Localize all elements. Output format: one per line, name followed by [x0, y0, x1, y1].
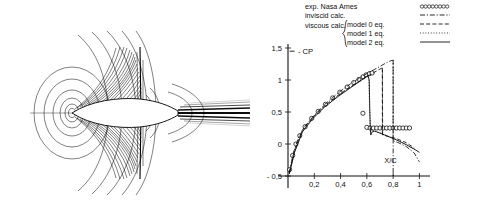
y-tick-label-2: 0,5 [271, 108, 282, 117]
legend-sample-circles [424, 5, 427, 8]
data-point-marker [407, 126, 411, 130]
legend-sample-circles [420, 5, 423, 8]
legend-sample-circles [435, 5, 438, 8]
figure-root: 1,510,50- 0,50,20,40,60,81- CPX/Cexp. Na… [0, 0, 488, 213]
legend-sample-circles [428, 5, 431, 8]
x-tick-label-3: 0,8 [388, 180, 399, 189]
cp-chart-svg: 1,510,50- 0,50,20,40,60,81- CPX/Cexp. Na… [250, 0, 488, 213]
x-tick-label-2: 0,6 [362, 180, 373, 189]
y-axis-label: - CP [298, 47, 313, 56]
legend-label-0: exp. Nasa Ames [305, 2, 358, 11]
series-dashdot [289, 60, 419, 173]
legend-sample-circles [438, 5, 441, 8]
legend-group-label: viscous calc. [305, 21, 346, 30]
contour-svg [0, 0, 250, 213]
x-tick-label-0: 0,2 [309, 180, 320, 189]
pressure-coefficient-chart: 1,510,50- 0,50,20,40,60,81- CPX/Cexp. Na… [250, 0, 488, 213]
y-tick-label-0: 1,5 [271, 44, 282, 53]
x-axis-label: X/C [384, 156, 397, 165]
legend-label-2: model 0 eq. [347, 20, 385, 29]
airfoil-profile [72, 99, 178, 128]
x-tick-label-4: 1 [417, 180, 421, 189]
y-tick-label-3: 0 [278, 140, 282, 149]
legend-sample-circles [442, 5, 445, 8]
legend-sample-circles [446, 5, 449, 8]
y-tick-label-4: - 0,5 [267, 172, 282, 181]
y-tick-label-1: 1 [278, 76, 282, 85]
series-solid [289, 76, 419, 175]
flow-field-contour-panel [0, 0, 250, 213]
legend-label-4: model 2 eq. [347, 38, 385, 47]
legend-sample-circles [431, 5, 434, 8]
legend-label-3: model 1 eq. [347, 29, 385, 38]
x-tick-label-1: 0,4 [335, 180, 346, 189]
data-point-marker [361, 111, 365, 115]
legend-label-1: inviscid calc. [305, 11, 345, 20]
